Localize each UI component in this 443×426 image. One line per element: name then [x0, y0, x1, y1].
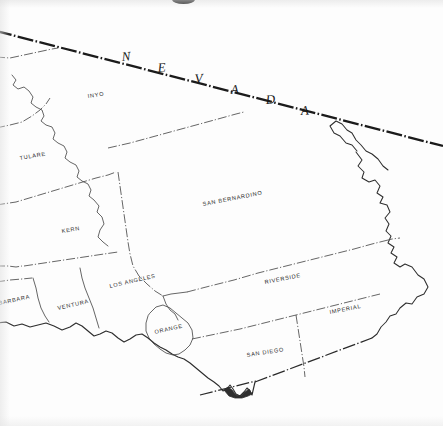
county-line-kern-sanbernardino [118, 172, 163, 296]
map-canvas: N E V A D A INYO TULARE KERN SAN BERNARD… [0, 0, 443, 426]
county-line-orange [146, 305, 193, 355]
county-line-sandiego-imperial [296, 315, 305, 377]
county-line-tulare-north [0, 48, 58, 58]
county-line-santabarbara-ventura [33, 278, 49, 322]
mexico-border-line [255, 338, 372, 382]
county-line-kern-losangeles [24, 252, 118, 266]
map-vector-layer [0, 0, 443, 426]
eastern-state-border-upper [330, 121, 388, 170]
county-line-santabarbara-north [0, 278, 32, 282]
county-line-la-sanbernardino [163, 292, 187, 296]
county-line-inyo-sanbernardino [108, 112, 244, 148]
county-line-riverside-south [192, 294, 380, 339]
county-line-tulare-northeast [0, 98, 50, 128]
county-line-ventura-losangeles [80, 268, 99, 328]
county-line-sanbernardino-riverside [187, 241, 384, 292]
colorado-river-border [356, 152, 428, 338]
pacific-coastline [0, 322, 255, 396]
county-line-riverside-east [384, 238, 400, 241]
county-line-tulare-kern [0, 172, 116, 205]
county-line-kern-west [0, 266, 22, 267]
nevada-state-line [0, 31, 443, 146]
county-line-inyo-west [12, 75, 108, 246]
